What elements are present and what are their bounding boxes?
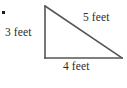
bullet-marker-icon <box>2 11 5 14</box>
label-hypotenuse: 5 feet <box>83 11 109 23</box>
right-triangle-figure: 3 feet 5 feet 4 feet <box>0 0 127 88</box>
label-leg-horizontal: 4 feet <box>63 60 89 72</box>
label-leg-vertical: 3 feet <box>5 26 31 38</box>
